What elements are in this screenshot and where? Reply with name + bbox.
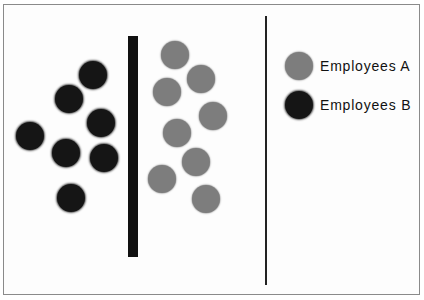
employee-b-dot-icon (57, 184, 85, 212)
employee-a-dot-icon (187, 65, 215, 93)
legend-divider-line (265, 16, 267, 285)
employee-a-dot-icon (153, 78, 181, 106)
employee-b-dot-icon (79, 61, 107, 89)
legend-item-employees-a: Employees A (285, 52, 411, 80)
employee-a-dot-icon (182, 148, 210, 176)
barrier-bar (128, 36, 138, 257)
employee-a-dot-icon (192, 185, 220, 213)
legend-item-employees-b: Employees B (285, 91, 411, 119)
employee-b-dot-icon (90, 144, 118, 172)
employee-a-dot-icon (148, 165, 176, 193)
employee-a-dot-icon (161, 41, 189, 69)
employee-a-dot-icon (163, 119, 191, 147)
employee-a-dot-icon (199, 102, 227, 130)
legend-swatch-a-icon (285, 52, 313, 80)
legend-swatch-b-icon (285, 91, 313, 119)
employee-b-dot-icon (87, 109, 115, 137)
employee-b-dot-icon (55, 85, 83, 113)
legend-label-b: Employees B (320, 97, 411, 113)
employee-b-dot-icon (52, 139, 80, 167)
legend-label-a: Employees A (320, 58, 411, 74)
employee-b-dot-icon (16, 122, 44, 150)
